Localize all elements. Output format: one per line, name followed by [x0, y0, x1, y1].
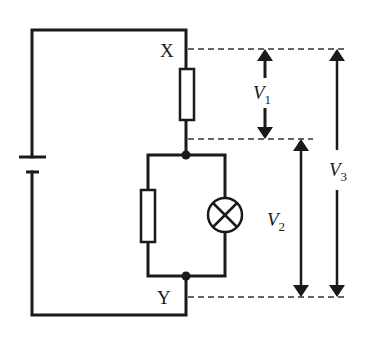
v3-label: V3	[329, 159, 347, 184]
v1-subscript: 1	[265, 92, 272, 107]
v3-subscript: 3	[341, 169, 348, 184]
parallel-left-bottom-wire	[148, 242, 186, 276]
v2-label: V2	[267, 209, 285, 234]
v1-label: V1	[253, 82, 271, 107]
resistor-1-icon	[180, 69, 194, 120]
v2-subscript: 2	[279, 219, 286, 234]
dashed-lines	[188, 49, 346, 297]
point-y-label: Y	[157, 287, 171, 308]
battery-icon	[19, 157, 46, 172]
lamp-icon	[208, 198, 242, 232]
junction-dot-bottom	[182, 272, 191, 281]
resistor-2-icon	[141, 190, 155, 242]
point-x-label: X	[160, 40, 174, 61]
wires	[32, 30, 225, 315]
parallel-left-top-wire	[148, 155, 186, 190]
junction-dot-top	[182, 151, 191, 160]
v2-arrow-icon	[293, 139, 309, 297]
parallel-right-bottom-wire	[186, 232, 225, 276]
circuit-diagram: X Y V1 V2 V3	[0, 0, 366, 337]
parallel-right-top-wire	[186, 155, 225, 198]
